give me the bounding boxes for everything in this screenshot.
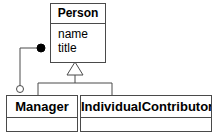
uml-class-diagram: Person name title Manager IndividualCont… bbox=[0, 0, 218, 135]
filled-circle-icon bbox=[37, 44, 45, 52]
attribute-compartment-individualcontributor bbox=[81, 117, 211, 131]
attribute-compartment-person: name title bbox=[51, 23, 105, 62]
hollow-triangle-icon bbox=[67, 62, 83, 75]
attribute-compartment-manager bbox=[7, 117, 77, 131]
attribute-item: title bbox=[58, 41, 105, 55]
class-name-manager: Manager bbox=[7, 96, 77, 117]
class-box-person[interactable]: Person name title bbox=[50, 3, 106, 63]
generalization-connector bbox=[38, 62, 112, 95]
class-box-individualcontributor[interactable]: IndividualContributor bbox=[80, 95, 212, 132]
composition-connector bbox=[17, 44, 46, 93]
attribute-item: name bbox=[58, 27, 105, 41]
class-name-individualcontributor: IndividualContributor bbox=[81, 96, 211, 117]
hollow-circle-icon bbox=[17, 86, 24, 93]
class-box-manager[interactable]: Manager bbox=[6, 95, 78, 132]
class-name-person: Person bbox=[51, 4, 105, 23]
